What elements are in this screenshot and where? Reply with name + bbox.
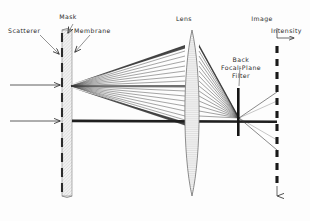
scattered-ray-fan [71, 46, 185, 124]
label-filter-line1: Back [233, 56, 250, 63]
optical-diagram-svg: Scatterer Mask Membrane Lens Image Inten… [0, 0, 310, 221]
label-membrane: Membrane [74, 27, 111, 34]
biconvex-lens [185, 30, 199, 196]
label-lens: Lens [176, 15, 192, 22]
label-scatterer: Scatterer [8, 27, 41, 34]
label-filter-line2: Focal-Plane [221, 64, 261, 71]
label-mask: Mask [59, 13, 77, 20]
input-beams [10, 85, 60, 121]
label-image: Image [251, 15, 273, 23]
leader-membrane [75, 35, 90, 52]
output-ray-upper [239, 92, 277, 118]
figure-canvas: Scatterer Mask Membrane Lens Image Inten… [0, 0, 310, 221]
label-intensity: Intensity [271, 27, 302, 35]
leader-scatterer [40, 35, 59, 54]
mask-plate [62, 29, 72, 198]
label-filter-line3: Filter [232, 72, 250, 79]
back-focal-plane-filter [237, 88, 240, 136]
